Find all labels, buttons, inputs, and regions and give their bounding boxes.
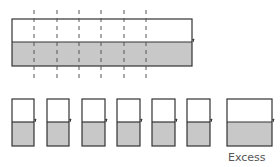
excess-label: Excess	[228, 151, 266, 164]
piece	[187, 99, 212, 146]
diagram-canvas	[0, 0, 280, 167]
piece	[82, 99, 107, 146]
piece	[12, 99, 36, 146]
top-bar-box	[12, 19, 194, 66]
piece	[117, 99, 142, 146]
excess-piece	[227, 99, 274, 146]
top-bar	[12, 19, 194, 66]
piece	[152, 99, 177, 146]
piece	[47, 99, 71, 146]
pieces	[12, 99, 274, 146]
